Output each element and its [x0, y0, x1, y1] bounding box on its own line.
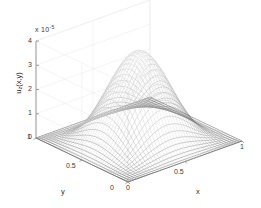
y-axis-title: y [61, 188, 65, 196]
figure-canvas: x 10-5 uz(x,y) 4 3 2 1 0 1 0.5 0 0 0.5 1… [0, 0, 261, 208]
z-tick-label-3: 3 [28, 61, 32, 68]
z-axis-title-wrapper: uz(x,y) [7, 61, 19, 105]
z-axis-exponent-label: x 10-5 [35, 24, 54, 33]
z-tick-label-4: 4 [28, 37, 32, 44]
z-axis-title-subscript: z [17, 87, 23, 90]
z-axis-title-base: u [14, 90, 23, 94]
y-tick-label-1: 1 [27, 133, 31, 140]
z-tick-label-1: 1 [28, 109, 32, 116]
y-tick-label-0-5: 0.5 [66, 162, 76, 169]
z-exponent-prefix: x 10 [35, 26, 49, 33]
x-tick-label-1: 1 [240, 143, 244, 150]
x-tick-label-0: 0 [126, 184, 130, 191]
z-exponent-value: -5 [49, 24, 54, 30]
z-axis-title-args: (x,y) [14, 72, 23, 87]
x-tick-label-0-5: 0.5 [174, 168, 184, 175]
z-axis-title: uz(x,y) [14, 72, 23, 94]
z-tick-label-2: 2 [28, 85, 32, 92]
y-tick-label-0: 0 [110, 184, 114, 191]
x-axis-title: x [196, 188, 200, 196]
